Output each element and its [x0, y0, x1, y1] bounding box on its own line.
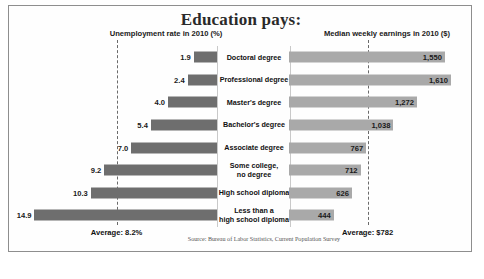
- unemployment-value-label: 10.3: [73, 188, 88, 197]
- unemployment-bar: [131, 142, 217, 153]
- category-label: Doctoral degree: [227, 53, 282, 62]
- unemployment-bar-cell: 1.9: [9, 46, 217, 69]
- unemployment-value-label: 9.2: [91, 166, 102, 175]
- chart-row: 9.2Some college,no degree712: [9, 159, 473, 182]
- unemployment-bar: [168, 97, 217, 108]
- unemployment-bar: [91, 187, 217, 198]
- category-label-cell: Less than ahigh school diploma: [217, 204, 291, 227]
- earnings-value-label: 1,272: [389, 98, 414, 107]
- earnings-bar-cell: 444: [289, 204, 473, 227]
- earnings-value-label: 1,038: [365, 121, 390, 130]
- earnings-bar-cell: 1,550: [289, 46, 473, 69]
- chart-row: 4.0Master's degree1,272: [9, 91, 473, 114]
- unemployment-bar-cell: 9.2: [9, 159, 217, 182]
- category-label-cell: Bachelor's degree: [217, 114, 291, 137]
- unemployment-bar-cell: 4.0: [9, 91, 217, 114]
- earnings-bar-cell: 1,272: [289, 91, 473, 114]
- chart-row: 7.0Associate degree767: [9, 136, 473, 159]
- chart-row: 1.9Doctoral degree1,550: [9, 46, 473, 69]
- unemployment-bar-cell: 7.0: [9, 136, 217, 159]
- chart-frame: Education pays: Unemployment rate in 201…: [8, 5, 472, 252]
- unemployment-bar-cell: 14.9: [9, 204, 217, 227]
- earnings-bar-cell: 767: [289, 136, 473, 159]
- unemployment-bar-cell: 10.3: [9, 182, 217, 205]
- unemployment-bar-cell: 2.4: [9, 69, 217, 92]
- unemployment-average-label: Average: 8.2%: [91, 228, 143, 237]
- chart-row: 2.4Professional degree1,610: [9, 69, 473, 92]
- earnings-bar-cell: 1,038: [289, 114, 473, 137]
- chart-row: 14.9Less than ahigh school diploma444: [9, 204, 473, 227]
- unemployment-bar-cell: 5.4: [9, 114, 217, 137]
- category-label-cell: Doctoral degree: [217, 46, 291, 69]
- category-label-cell: Master's degree: [217, 91, 291, 114]
- category-label: Less than ahigh school diploma: [219, 206, 289, 225]
- earnings-value-label: 767: [338, 143, 363, 152]
- unemployment-value-label: 5.4: [137, 121, 148, 130]
- earnings-axis-header: Median weekly earnings in 2010 ($): [297, 29, 477, 38]
- earnings-value-label: 626: [324, 188, 349, 197]
- category-label: High school diploma: [219, 188, 290, 197]
- unemployment-bar: [34, 210, 217, 221]
- earnings-value-label: 712: [333, 166, 358, 175]
- unemployment-bar: [151, 120, 217, 131]
- category-label: Bachelor's degree: [223, 120, 285, 129]
- category-label: Professional degree: [220, 75, 289, 84]
- category-label: Associate degree: [224, 143, 284, 152]
- chart-row: 5.4Bachelor's degree1,038: [9, 114, 473, 137]
- bar-rows: 1.9Doctoral degree1,5502.4Professional d…: [9, 46, 473, 227]
- chart-title: Education pays:: [9, 10, 473, 30]
- category-label-cell: Professional degree: [217, 69, 291, 92]
- unemployment-value-label: 1.9: [180, 53, 191, 62]
- unemployment-bar: [104, 165, 217, 176]
- unemployment-bar: [194, 52, 217, 63]
- earnings-bar-cell: 712: [289, 159, 473, 182]
- earnings-bar-cell: 1,610: [289, 69, 473, 92]
- source-note: Source: Bureau of Labor Statistics, Curr…: [149, 236, 379, 242]
- category-label: Some college,no degree: [230, 161, 278, 180]
- earnings-value-label: 1,550: [417, 53, 442, 62]
- category-label: Master's degree: [227, 98, 281, 107]
- unemployment-axis-header: Unemployment rate in 2010 (%): [71, 29, 261, 38]
- earnings-value-label: 444: [306, 211, 331, 220]
- category-label-cell: High school diploma: [217, 182, 291, 205]
- unemployment-value-label: 4.0: [154, 98, 165, 107]
- unemployment-value-label: 2.4: [174, 75, 185, 84]
- category-label-cell: Some college,no degree: [217, 159, 291, 182]
- unemployment-bar: [188, 74, 217, 85]
- unemployment-value-label: 7.0: [118, 143, 129, 152]
- earnings-bar-cell: 626: [289, 182, 473, 205]
- unemployment-value-label: 14.9: [17, 211, 32, 220]
- category-label-cell: Associate degree: [217, 136, 291, 159]
- earnings-value-label: 1,610: [423, 75, 448, 84]
- chart-row: 10.3High school diploma626: [9, 182, 473, 205]
